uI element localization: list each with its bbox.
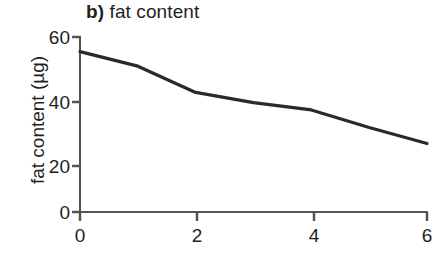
- data-series-line: [80, 52, 427, 144]
- x-axis-ticks: [80, 212, 427, 221]
- figure-panel-b: b) fat content fat content (µg) 60 40 20…: [0, 0, 434, 262]
- axis-lines: [80, 36, 428, 212]
- plot-area: [0, 0, 434, 262]
